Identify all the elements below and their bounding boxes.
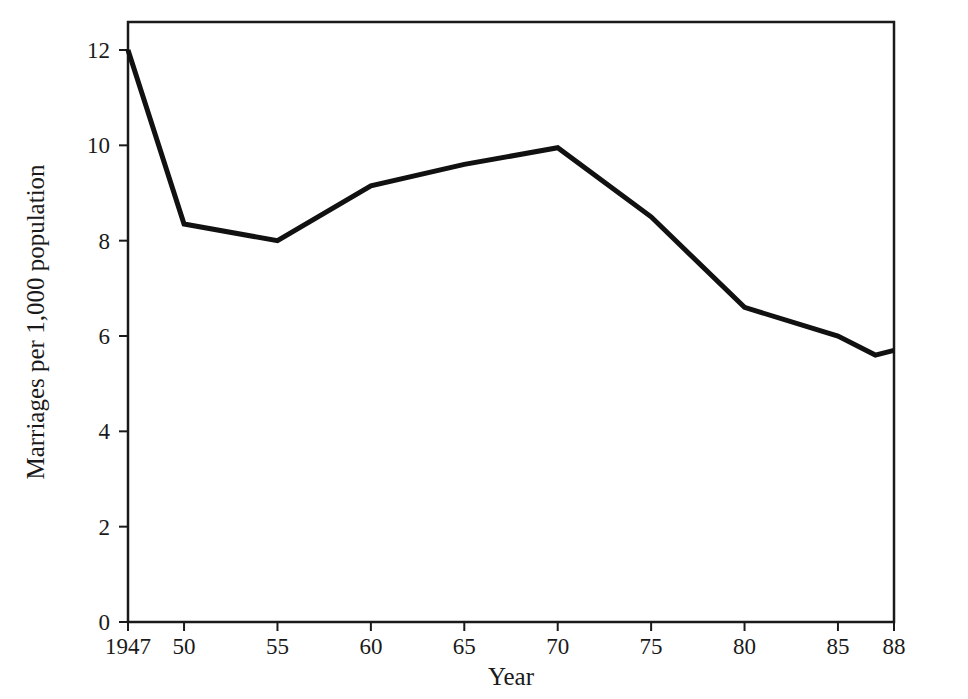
x-tick-label: 80 xyxy=(733,634,756,659)
line-chart: 121086420 1947505560657075808588 Marriag… xyxy=(0,0,968,699)
x-tick-label: 60 xyxy=(359,634,382,659)
x-tick-label: 75 xyxy=(640,634,663,659)
x-tick-label: 65 xyxy=(453,634,476,659)
x-tick-label: 50 xyxy=(173,634,196,659)
x-tick-label: 85 xyxy=(826,634,849,659)
y-tick-label: 0 xyxy=(99,610,111,635)
y-tick-label: 4 xyxy=(99,419,111,444)
y-axis-ticks: 121086420 xyxy=(87,38,128,635)
plot-frame xyxy=(128,22,894,622)
x-axis-title: Year xyxy=(488,663,535,690)
y-axis-title: Marriages per 1,000 population xyxy=(22,164,49,480)
y-tick-label: 12 xyxy=(87,38,110,63)
x-tick-label: 55 xyxy=(266,634,289,659)
x-tick-label: 88 xyxy=(883,634,906,659)
data-series-line xyxy=(128,50,894,355)
y-tick-label: 8 xyxy=(99,229,111,254)
x-tick-label: 1947 xyxy=(105,634,151,659)
y-tick-label: 2 xyxy=(99,515,111,540)
x-axis-ticks: 1947505560657075808588 xyxy=(105,622,906,659)
y-tick-label: 6 xyxy=(99,324,111,349)
y-tick-label: 10 xyxy=(87,133,110,158)
x-tick-label: 70 xyxy=(546,634,569,659)
chart-page: 121086420 1947505560657075808588 Marriag… xyxy=(0,0,968,699)
